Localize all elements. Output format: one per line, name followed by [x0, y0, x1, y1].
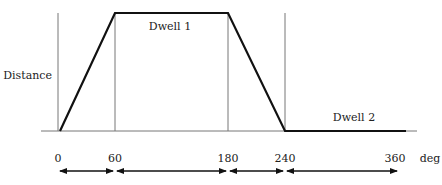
tick-0: 0 [55, 152, 62, 165]
dwell1-label: Dwell 1 [149, 20, 191, 33]
unit-label: deg [420, 152, 441, 165]
tick-60: 60 [108, 152, 122, 165]
dwell2-label: Dwell 2 [333, 111, 375, 124]
tick-180: 180 [218, 152, 239, 165]
y-axis-label: Distance [3, 69, 52, 82]
tick-240: 240 [275, 152, 296, 165]
cam-diagram: Distance Dwell 1 Dwell 2 0 60 180 240 36… [0, 0, 442, 185]
tick-360: 360 [385, 152, 406, 165]
